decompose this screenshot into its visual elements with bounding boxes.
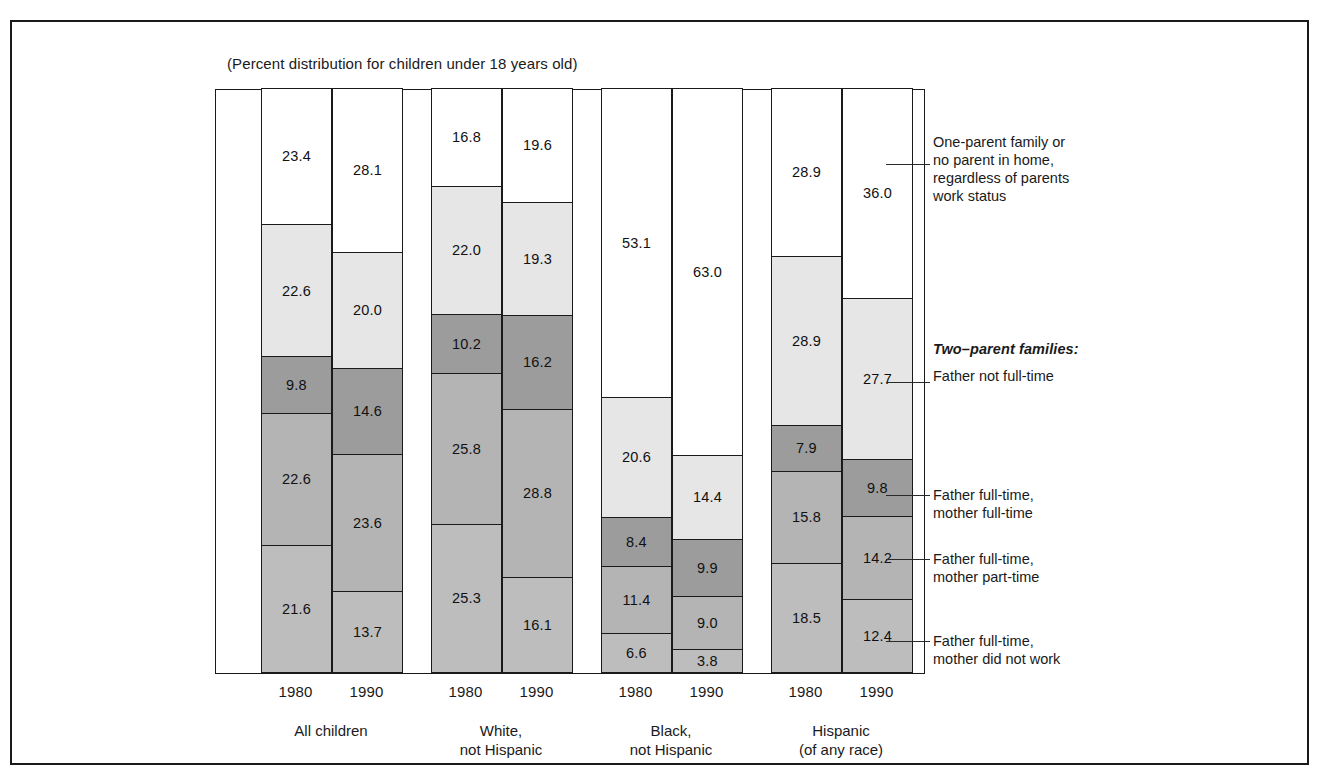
- bar-segment[interactable]: 25.3: [432, 525, 501, 672]
- chart-subtitle: (Percent distribution for children under…: [227, 55, 578, 72]
- year-tick-label: 1990: [841, 683, 912, 700]
- segment-value: 28.9: [792, 334, 821, 349]
- segment-value: 20.6: [622, 450, 651, 465]
- segment-value: 11.4: [623, 593, 651, 608]
- segment-value: 9.8: [286, 378, 307, 393]
- bar-segment[interactable]: 14.4: [673, 456, 742, 540]
- year-tick-label: 1990: [501, 683, 572, 700]
- bar-segment[interactable]: 9.8: [843, 460, 912, 517]
- bar-segment[interactable]: 23.6: [333, 455, 402, 593]
- segment-value: 16.1: [523, 618, 552, 633]
- segment-value: 9.0: [697, 616, 718, 631]
- stacked-bar[interactable]: 28.120.014.623.613.7: [332, 88, 403, 673]
- year-tick-label: 1980: [770, 683, 841, 700]
- bar-segment[interactable]: 25.8: [432, 374, 501, 524]
- bar-segment[interactable]: 11.4: [602, 567, 671, 633]
- bar-segment[interactable]: 36.0: [843, 89, 912, 299]
- bar-segment[interactable]: 9.9: [673, 540, 742, 598]
- bar-segment[interactable]: 13.7: [333, 592, 402, 672]
- legend-item-father-ft-mother-pt[interactable]: Father full-time, mother part-time: [933, 550, 1039, 586]
- bar-segment[interactable]: 3.8: [673, 650, 742, 672]
- bar-segment[interactable]: 9.0: [673, 597, 742, 649]
- bar-segment[interactable]: 6.6: [602, 634, 671, 672]
- bar-segment[interactable]: 18.5: [772, 564, 841, 672]
- bar-segment[interactable]: 28.1: [333, 89, 402, 253]
- segment-value: 13.7: [353, 625, 382, 640]
- bar-segment[interactable]: 12.4: [843, 600, 912, 672]
- year-tick-label: 1980: [430, 683, 501, 700]
- segment-value: 18.5: [792, 611, 821, 626]
- bar-segment[interactable]: 14.6: [333, 369, 402, 454]
- bar-segment[interactable]: 20.6: [602, 398, 671, 518]
- bar-segment[interactable]: 22.0: [432, 187, 501, 315]
- segment-value: 22.6: [282, 284, 311, 299]
- segment-value: 14.2: [863, 551, 892, 566]
- bar-segment[interactable]: 19.3: [503, 203, 572, 316]
- segment-value: 22.0: [452, 243, 481, 258]
- stacked-bar[interactable]: 63.014.49.99.03.8: [672, 88, 743, 673]
- stacked-bar[interactable]: 16.822.010.225.825.3: [431, 88, 502, 673]
- stacked-bar[interactable]: 19.619.316.228.816.1: [502, 88, 573, 673]
- year-tick-label: 1980: [600, 683, 671, 700]
- year-tick-label: 1980: [260, 683, 331, 700]
- bar-segment[interactable]: 22.6: [262, 225, 331, 357]
- segment-value: 6.6: [626, 646, 647, 661]
- bar-segment[interactable]: 63.0: [673, 89, 742, 456]
- legend-item-father-ft-mother-none[interactable]: Father full-time, mother did not work: [933, 632, 1060, 668]
- segment-value: 27.7: [863, 372, 892, 387]
- bar-segment[interactable]: 20.0: [333, 253, 402, 370]
- bar-segment[interactable]: 9.8: [262, 357, 331, 414]
- bar-segment[interactable]: 16.1: [503, 578, 572, 672]
- segment-value: 16.8: [452, 130, 481, 145]
- bar-segment[interactable]: 8.4: [602, 518, 671, 567]
- segment-value: 63.0: [693, 265, 722, 280]
- segment-value: 9.8: [867, 481, 888, 496]
- segment-value: 36.0: [863, 186, 892, 201]
- bar-segment[interactable]: 28.9: [772, 89, 841, 257]
- legend-item-one-parent-or-no-parent[interactable]: One-parent family or no parent in home, …: [933, 133, 1069, 205]
- segment-value: 7.9: [796, 441, 817, 456]
- legend-item-father-not-full-time[interactable]: Father not full-time: [933, 367, 1054, 385]
- bar-segment[interactable]: 10.2: [432, 315, 501, 374]
- stacked-bar[interactable]: 53.120.68.411.46.6: [601, 88, 672, 673]
- segment-value: 8.4: [626, 535, 647, 550]
- legend-leader-line-father-not-full-time: [886, 382, 930, 383]
- bar-segment[interactable]: 22.6: [262, 414, 331, 546]
- bar-segment[interactable]: 7.9: [772, 426, 841, 472]
- year-tick-label: 1990: [331, 683, 402, 700]
- segment-value: 23.6: [353, 516, 382, 531]
- bar-segment[interactable]: 21.6: [262, 546, 331, 672]
- segment-value: 14.4: [693, 490, 722, 505]
- segment-value: 14.6: [353, 404, 382, 419]
- legend-leader-line-one-parent-or-no-parent: [886, 164, 930, 165]
- segment-value: 21.6: [282, 602, 311, 617]
- segment-value: 53.1: [622, 236, 651, 251]
- segment-value: 19.6: [523, 138, 552, 153]
- legend-leader-line-father-ft-mother-none: [886, 641, 930, 642]
- bar-segment[interactable]: 15.8: [772, 472, 841, 564]
- segment-value: 16.2: [523, 355, 552, 370]
- segment-value: 9.9: [697, 561, 718, 576]
- legend-leader-line-father-ft-mother-pt: [886, 559, 930, 560]
- stacked-bar[interactable]: 36.027.79.814.212.4: [842, 88, 913, 673]
- bar-segment[interactable]: 28.8: [503, 410, 572, 578]
- bar-segment[interactable]: 27.7: [843, 299, 912, 460]
- stacked-bar[interactable]: 28.928.97.915.818.5: [771, 88, 842, 673]
- segment-value: 15.8: [792, 510, 821, 525]
- segment-value: 25.3: [452, 591, 481, 606]
- segment-value: 25.8: [452, 442, 481, 457]
- segment-value: 20.0: [353, 303, 382, 318]
- plot-area: 23.422.69.822.621.628.120.014.623.613.71…: [215, 89, 925, 674]
- stacked-bar[interactable]: 23.422.69.822.621.6: [261, 88, 332, 673]
- bar-segment[interactable]: 23.4: [262, 89, 331, 225]
- legend-heading: Two–parent families:: [933, 340, 1079, 358]
- bar-segment[interactable]: 53.1: [602, 89, 671, 398]
- segment-value: 3.8: [697, 654, 718, 669]
- group-axis-label: Hispanic(of any race): [741, 721, 941, 759]
- legend-item-father-ft-mother-ft[interactable]: Father full-time, mother full-time: [933, 486, 1034, 522]
- bar-segment[interactable]: 28.9: [772, 257, 841, 425]
- segment-value: 22.6: [282, 472, 311, 487]
- bar-segment[interactable]: 16.8: [432, 89, 501, 187]
- bar-segment[interactable]: 16.2: [503, 316, 572, 410]
- bar-segment[interactable]: 19.6: [503, 89, 572, 203]
